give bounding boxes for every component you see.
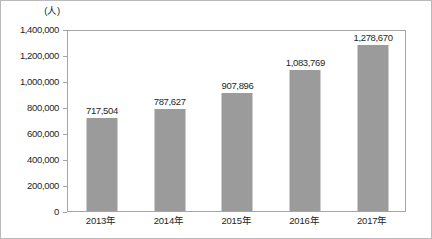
bar-value-label: 1,083,769 [286, 57, 325, 68]
y-axis-tick-label: 1,400,000 [20, 24, 59, 36]
bar[interactable] [154, 109, 185, 211]
x-axis-category-label: 2015年 [203, 214, 271, 228]
bar-slot: 1,083,769 [271, 29, 339, 211]
y-axis-tick-label: 400,000 [27, 154, 59, 166]
bar-value-label: 1,278,670 [354, 32, 393, 43]
y-axis-tick: 1,200,000 [1, 50, 67, 62]
bar[interactable] [86, 118, 117, 211]
y-axis-tick-label: 1,200,000 [20, 50, 59, 62]
x-axis: 2013年 2014年 2015年 2016年 2017年 [67, 214, 406, 234]
y-axis-tick: 400,000 [1, 154, 67, 166]
y-axis: 1,400,000 1,200,000 1,000,000 800,000 60… [1, 1, 67, 239]
bar-slot: 717,504 [68, 29, 136, 211]
y-axis-tick: 1,000,000 [1, 76, 67, 88]
bar-chart-figure: (人) 1,400,000 1,200,000 1,000,000 800,00… [0, 0, 432, 239]
bar-slot: 907,896 [204, 29, 272, 211]
x-axis-category-label: 2016年 [270, 214, 338, 228]
y-axis-tick: 200,000 [1, 180, 67, 192]
bar-slot: 1,278,670 [339, 29, 407, 211]
bar[interactable] [222, 93, 253, 211]
x-axis-category-label: 2013年 [67, 214, 135, 228]
y-axis-tick: 0 [1, 206, 67, 218]
bar-slot: 787,627 [136, 29, 204, 211]
y-axis-tick-label: 600,000 [27, 128, 59, 140]
y-axis-tick: 600,000 [1, 128, 67, 140]
x-axis-category-label: 2017年 [338, 214, 406, 228]
y-axis-tick-label: 1,000,000 [20, 76, 59, 88]
x-axis-category-label: 2014年 [135, 214, 203, 228]
bar-value-label: 907,896 [222, 80, 254, 91]
y-axis-tick: 800,000 [1, 102, 67, 114]
bar[interactable] [358, 45, 389, 211]
plot-area: 717,504 787,627 907,896 1,083,769 1,278,… [67, 30, 406, 212]
bar-value-label: 787,627 [154, 96, 186, 107]
bar[interactable] [290, 70, 321, 211]
y-axis-tick-label: 0 [54, 206, 59, 218]
y-axis-tick-label: 200,000 [27, 180, 59, 192]
bar-value-label: 717,504 [86, 105, 118, 116]
y-axis-tick-label: 800,000 [27, 102, 59, 114]
y-axis-tick: 1,400,000 [1, 24, 67, 36]
